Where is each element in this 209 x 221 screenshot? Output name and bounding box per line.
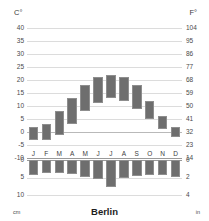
precip-tick-right: 2	[186, 174, 190, 181]
month-label: J	[105, 151, 118, 158]
temp-tick-right: 41	[186, 116, 193, 123]
temp-range-bar	[42, 124, 52, 140]
month-label: N	[156, 151, 169, 158]
temp-range-bar	[29, 127, 39, 140]
precip-bar	[119, 160, 129, 178]
temp-tick-left: 15	[17, 90, 24, 97]
temp-range-bar	[145, 101, 155, 119]
temp-tick-left: 5	[20, 116, 24, 123]
month-label: O	[143, 151, 156, 158]
temp-tick-right: 95	[186, 38, 193, 45]
precip-bar	[158, 160, 168, 175]
precip-bar	[80, 160, 90, 177]
month-label: S	[130, 151, 143, 158]
climate-chart: C° F° 4010435953086257720681559105054103…	[0, 0, 209, 221]
temp-gridline	[27, 54, 182, 55]
temp-tick-left: -5	[18, 142, 24, 149]
temp-tick-right: 68	[186, 77, 193, 84]
chart-title: Berlin	[0, 206, 209, 217]
precip-bar	[29, 160, 39, 175]
temp-range-bar	[119, 77, 129, 100]
temp-range-bar	[132, 85, 142, 108]
temp-range-bar	[158, 116, 168, 129]
precip-bar	[55, 160, 65, 173]
month-label: D	[169, 151, 182, 158]
month-label: F	[40, 151, 53, 158]
temp-range-bar	[55, 111, 65, 134]
temp-gridline	[27, 158, 182, 159]
temp-tick-left: 35	[17, 38, 24, 45]
left-axis-unit-label: C°	[14, 8, 22, 17]
month-label: A	[117, 151, 130, 158]
temperature-plot: 40104359530862577206815591050541032-523-…	[27, 28, 182, 158]
temp-gridline	[27, 93, 182, 94]
precip-tick-left: 0	[20, 157, 24, 164]
temp-tick-left: 20	[17, 77, 24, 84]
precip-bar	[93, 160, 103, 179]
temp-tick-right: 77	[186, 64, 193, 71]
temp-tick-left: 10	[17, 103, 24, 110]
temp-tick-right: 32	[186, 129, 193, 136]
temp-tick-right: 50	[186, 103, 193, 110]
precip-bar	[67, 160, 77, 174]
month-label: M	[53, 151, 66, 158]
precip-bar	[171, 160, 181, 177]
precip-tick-left: 10	[17, 192, 24, 199]
temp-tick-left: 40	[17, 25, 24, 32]
temp-gridline	[27, 28, 182, 29]
precip-gridline	[27, 195, 182, 196]
temp-range-bar	[106, 75, 116, 98]
temp-tick-left: 30	[17, 51, 24, 58]
precip-gridline	[27, 178, 182, 179]
temp-tick-right: 23	[186, 142, 193, 149]
temp-gridline	[27, 106, 182, 107]
month-label: J	[27, 151, 40, 158]
month-label: A	[66, 151, 79, 158]
precipitation-plot: 0052104JFMAMJJASOND	[27, 160, 182, 195]
temp-tick-left: 25	[17, 64, 24, 71]
precip-bar	[132, 160, 142, 176]
right-axis-unit-label: F°	[189, 8, 197, 17]
temp-gridline	[27, 145, 182, 146]
temp-gridline	[27, 80, 182, 81]
temp-gridline	[27, 41, 182, 42]
temp-range-bar	[80, 85, 90, 111]
month-label: J	[92, 151, 105, 158]
temp-range-bar	[93, 77, 103, 103]
temp-range-bar	[171, 127, 181, 137]
temp-tick-right: 86	[186, 51, 193, 58]
precip-tick-right: 0	[186, 157, 190, 164]
precip-bar	[42, 160, 52, 173]
temp-tick-right: 59	[186, 90, 193, 97]
precip-tick-right: 4	[186, 192, 190, 199]
temp-tick-left: 0	[20, 129, 24, 136]
temp-gridline	[27, 67, 182, 68]
precip-tick-left: 5	[20, 174, 24, 181]
month-label: M	[79, 151, 92, 158]
precip-bar	[106, 160, 116, 187]
temp-range-bar	[67, 98, 77, 124]
temp-tick-right: 104	[186, 25, 197, 32]
precip-bar	[145, 160, 155, 175]
